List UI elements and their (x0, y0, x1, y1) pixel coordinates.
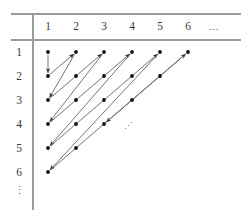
grid-node-r3-c2 (74, 98, 78, 102)
grid-node-r3-c4 (130, 98, 134, 102)
grid-node-r2-c3 (102, 74, 106, 78)
grid-node-r5-c2 (74, 146, 78, 150)
row-header-6: 6 (16, 166, 22, 178)
arrow-down-left-2 (50, 54, 75, 97)
cantor-enumeration-figure: 123456...123456⋮⋰ (0, 0, 252, 217)
grid-node-r4-c1 (46, 122, 50, 126)
grid-node-r1-c3 (102, 50, 106, 54)
grid-node-r4-c3 (102, 122, 106, 126)
row-header-4: 4 (16, 118, 22, 130)
row-header-2: 2 (16, 70, 22, 82)
grid-node-r1-c6 (186, 50, 190, 54)
grid-node-r1-c5 (158, 50, 162, 54)
arrow-down-left-8 (50, 54, 158, 170)
column-header-2: 2 (73, 20, 79, 32)
grid-node-r6-c1 (46, 170, 50, 174)
arrow-down-left-6 (50, 54, 130, 146)
column-header-ellipsis: ... (209, 20, 219, 32)
column-header-1: 1 (45, 20, 51, 32)
column-header-6: 6 (185, 20, 191, 32)
arrow-down-left-4 (50, 54, 102, 121)
arrow-up-right-1 (50, 54, 74, 74)
grid-node-r3-c3 (102, 98, 106, 102)
row-header-1: 1 (16, 46, 22, 58)
row-header-3: 3 (16, 94, 22, 106)
grid-node-r2-c4 (130, 74, 134, 78)
grid-node-r5-c1 (46, 146, 50, 150)
grid-node-r1-c4 (130, 50, 134, 54)
column-header-3: 3 (101, 20, 107, 32)
enumeration-arrows (48, 54, 186, 171)
grid-node-r2-c1 (46, 74, 50, 78)
grid-node-r1-c2 (74, 50, 78, 54)
column-header-5: 5 (157, 20, 163, 32)
axis-labels: 123456...123456⋮⋰ (14, 20, 220, 196)
figure-canvas: 123456...123456⋮⋰ (0, 0, 252, 217)
grid-node-r2-c2 (74, 74, 78, 78)
row-header-ellipsis: ⋮ (14, 184, 25, 196)
grid-node-r1-c1 (46, 50, 50, 54)
grid-node-r3-c1 (46, 98, 50, 102)
interior-diagonal-ellipsis: ⋰ (124, 121, 133, 131)
grid-node-r4-c2 (74, 122, 78, 126)
column-header-4: 4 (129, 20, 135, 32)
row-header-5: 5 (16, 142, 22, 154)
grid-node-r2-c5 (158, 74, 162, 78)
table-rules (11, 14, 241, 210)
